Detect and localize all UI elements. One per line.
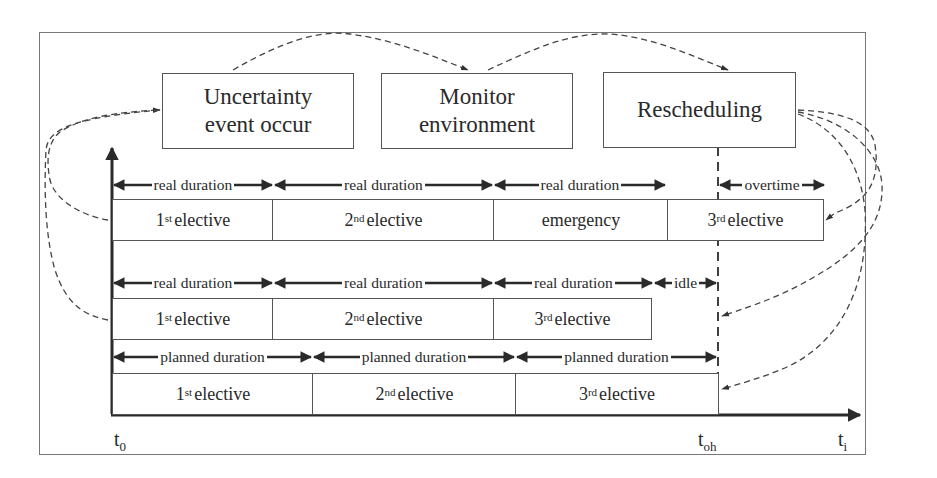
rescheduling-timeline-diagram: Uncertainty event occur Monitor environm…	[0, 0, 937, 478]
dashed-arrow-monitor-to-rescheduling	[488, 34, 728, 70]
top-row-overtime: overtime	[720, 175, 824, 195]
rescheduling-box: Rescheduling	[603, 72, 796, 148]
middle-row-cell-2nd-elective: 2ndelective	[272, 298, 495, 340]
bottom-row-duration-3: planned duration	[517, 347, 716, 367]
dashed-arrow-rescheduling-to-bottom-row	[722, 114, 865, 389]
monitor-box-line2: environment	[419, 111, 535, 139]
bottom-row-duration-1: planned duration	[114, 347, 311, 367]
bottom-row-duration-2: planned duration	[314, 347, 514, 367]
top-row-cell-2nd-elective: 2ndelective	[272, 199, 495, 241]
bottom-row-cell-3rd-elective: 3rdelective	[515, 373, 719, 415]
uncertainty-box-line1: Uncertainty	[204, 83, 313, 111]
axis-label-toh: toh	[698, 428, 717, 451]
top-row-cell-1st-elective: 1stelective	[112, 199, 274, 241]
top-row-cell-3rd-elective: 3rdelective	[667, 199, 824, 241]
middle-row-duration-3: real duration	[495, 273, 652, 293]
axis-label-ti: ti	[838, 428, 847, 451]
top-row-duration-2: real duration	[275, 175, 492, 195]
uncertainty-box-line2: event occur	[205, 111, 312, 139]
axis-label-t0: t0	[114, 428, 126, 451]
middle-row-cell-3rd-elective: 3rdelective	[493, 298, 652, 340]
top-row-cell-emergency: emergency	[493, 199, 669, 241]
middle-row-duration-1: real duration	[114, 273, 272, 293]
dashed-arrow-uncertainty-to-monitor	[233, 33, 468, 70]
top-row-duration-3: real duration	[495, 175, 665, 195]
monitor-environment-box: Monitor environment	[381, 73, 573, 149]
bottom-row-cell-2nd-elective: 2ndelective	[312, 373, 517, 415]
uncertainty-event-box: Uncertainty event occur	[162, 73, 354, 149]
middle-row-idle: idle	[655, 273, 716, 293]
middle-row-duration-2: real duration	[275, 273, 492, 293]
monitor-box-line1: Monitor	[439, 83, 514, 111]
rescheduling-box-label: Rescheduling	[637, 96, 762, 124]
top-row-duration-1: real duration	[114, 175, 272, 195]
bottom-row-cell-1st-elective: 1stelective	[112, 373, 314, 415]
middle-row-cell-1st-elective: 1stelective	[112, 298, 274, 340]
